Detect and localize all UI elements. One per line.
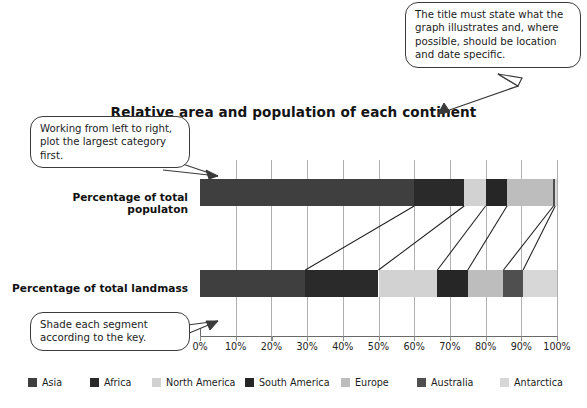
x-tick-label-80: 80% — [466, 341, 506, 352]
callout-shade-hint: Shade each segment according to the key. — [30, 312, 190, 351]
legend-swatch-icon — [500, 378, 509, 387]
connector-africa — [379, 206, 465, 270]
legend-label: Europe — [355, 377, 389, 388]
x-tick-label-90: 90% — [501, 341, 541, 352]
legend-swatch-icon — [417, 378, 426, 387]
row-label-population: Percentage of total populaton — [10, 191, 188, 215]
x-tick-label-60: 60% — [394, 341, 434, 352]
legend-swatch-icon — [90, 378, 99, 387]
x-tick-label-70: 70% — [430, 341, 470, 352]
legend-item-europe[interactable]: Europe — [341, 377, 389, 388]
legend-label: Africa — [104, 377, 131, 388]
x-tick-label-40: 40% — [323, 341, 363, 352]
connector-north-america — [437, 206, 485, 270]
legend-label: South America — [259, 377, 330, 388]
legend-label: North America — [166, 377, 235, 388]
legend-item-south-america[interactable]: South America — [245, 377, 330, 388]
legend-label: Asia — [42, 377, 62, 388]
x-tick-label-30: 30% — [287, 341, 327, 352]
legend-swatch-icon — [341, 378, 350, 387]
legend-item-africa[interactable]: Africa — [90, 377, 131, 388]
row-label-landmass: Percentage of total landmass — [10, 282, 188, 294]
legend-swatch-icon — [28, 378, 37, 387]
legend-label: Australia — [431, 377, 473, 388]
callout-order-hint: Working from left to right, plot the lar… — [30, 116, 190, 168]
legend-item-north-america[interactable]: North America — [152, 377, 235, 388]
chart-legend: AsiaAfricaNorth AmericaSouth AmericaEuro… — [0, 372, 587, 392]
connector-asia — [305, 206, 414, 270]
x-tick-label-100: 100% — [537, 341, 577, 352]
legend-label: Antarctica — [514, 377, 563, 388]
legend-item-australia[interactable]: Australia — [417, 377, 473, 388]
legend-swatch-icon — [152, 378, 161, 387]
callout-title-leader — [430, 72, 550, 122]
connector-south-america — [468, 206, 507, 270]
callout-title-hint: The title must state what the graph illu… — [405, 2, 581, 68]
chart-canvas: The title must state what the graph illu… — [0, 0, 587, 408]
x-tick-label-50: 50% — [359, 341, 399, 352]
legend-item-asia[interactable]: Asia — [28, 377, 62, 388]
legend-swatch-icon — [245, 378, 254, 387]
legend-item-antarctica[interactable]: Antarctica — [500, 377, 563, 388]
